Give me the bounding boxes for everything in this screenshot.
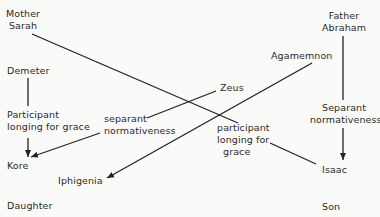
node-abraham-label: Abraham	[322, 22, 366, 34]
node-zeus: Zeus	[220, 82, 244, 94]
participant-center-line1: participant	[217, 122, 270, 134]
node-father-label: Father	[322, 10, 366, 22]
node-participant-center: participant longing for grace	[217, 122, 270, 158]
node-son: Son	[322, 201, 340, 213]
node-demeter: Demeter	[7, 65, 49, 77]
node-sarah-label: Sarah	[6, 20, 40, 32]
edge-separant-to-kore	[31, 133, 100, 157]
node-separant-right: Separant normativeness	[310, 102, 378, 126]
node-separant-center: separant normativeness	[104, 113, 176, 137]
node-participant-left: Participant longing for grace	[7, 109, 90, 133]
separant-right-line1: Separant	[310, 102, 378, 114]
participant-center-line3: grace	[217, 146, 270, 158]
node-agamemnon: Agamemnon	[271, 50, 332, 62]
participant-center-line2: longing for	[217, 134, 270, 146]
node-daughter: Daughter	[7, 200, 52, 212]
separant-center-line2: normativeness	[104, 125, 176, 137]
node-kore: Kore	[7, 160, 29, 172]
node-mother-label: Mother	[6, 8, 40, 20]
participant-left-line1: Participant	[7, 109, 90, 121]
participant-left-line2: longing for grace	[7, 121, 90, 133]
separant-right-line2: normativeness	[310, 114, 378, 126]
node-father-abraham: Father Abraham	[322, 10, 366, 34]
node-isaac: Isaac	[322, 164, 347, 176]
separant-center-line1: separant	[104, 113, 176, 125]
node-iphigenia: Iphigenia	[58, 175, 103, 187]
edge-participant-to-isaac	[270, 143, 316, 164]
node-mother-sarah: Mother Sarah	[6, 8, 40, 32]
